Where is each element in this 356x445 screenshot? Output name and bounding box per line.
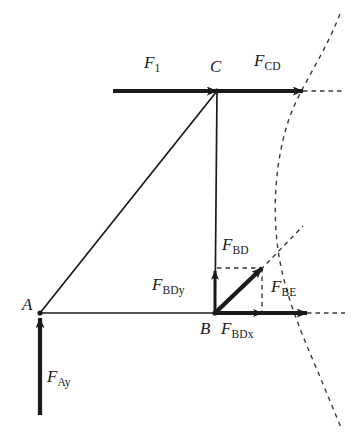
free-body-diagram: F1FCDFAyFBDFBDyFBDxFBEABC — [0, 0, 356, 445]
force-FBDx-label: FBDx — [221, 320, 254, 337]
force-FBDy-symbol: F — [152, 275, 162, 294]
force-FBDx-symbol: F — [221, 319, 231, 338]
force-FBE-subscript: BE — [281, 286, 296, 298]
force-vector-layer — [40, 91, 307, 415]
force-FBDy-subscript: BDy — [162, 284, 184, 296]
dashed-reference-curve — [275, 14, 342, 430]
force-FCD-label: FCD — [254, 52, 281, 69]
force-FCD-subscript: CD — [264, 60, 280, 72]
point-label-A: A — [22, 296, 32, 313]
point-label-B: B — [200, 320, 210, 337]
force-FAy-subscript: Ay — [57, 376, 70, 388]
force-FBD-symbol: F — [222, 235, 232, 254]
force-FBD-subscript: BD — [232, 244, 248, 256]
reference-curve-layer — [275, 14, 342, 430]
joint-C — [214, 88, 219, 93]
force-FBDx-subscript: BDx — [231, 328, 253, 340]
point-label-C-text: C — [210, 57, 221, 76]
structure-member-layer — [40, 91, 217, 313]
force-F1-label: F1 — [144, 54, 160, 71]
force-FAy-label: FAy — [47, 368, 71, 385]
force-F1-subscript: 1 — [154, 62, 160, 74]
joint-B — [212, 310, 217, 315]
joint-A — [37, 310, 42, 315]
force-FAy-symbol: F — [47, 367, 57, 386]
force-FCD-symbol: F — [254, 51, 264, 70]
force-F1-symbol: F — [144, 53, 154, 72]
force-FBD-vector — [215, 268, 262, 313]
force-FBDy-label: FBDy — [152, 276, 185, 293]
member-A-to-C — [40, 91, 217, 313]
point-label-C: C — [210, 58, 221, 75]
force-FBD-label: FBD — [222, 236, 249, 253]
point-label-A-text: A — [22, 295, 32, 314]
force-FBE-symbol: F — [271, 277, 281, 296]
point-label-B-text: B — [200, 319, 210, 338]
force-FBE-label: FBE — [271, 278, 297, 295]
